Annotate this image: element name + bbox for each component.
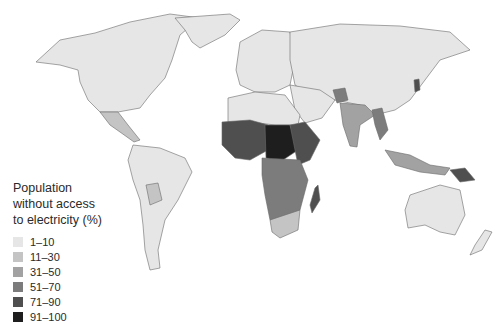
- legend-swatch: [13, 297, 23, 307]
- legend-item: 91–100: [13, 309, 133, 324]
- legend-swatch: [13, 282, 23, 292]
- region-papua-new-guinea: [450, 168, 475, 182]
- legend-label: 1–10: [30, 236, 54, 248]
- legend-swatch: [13, 252, 23, 262]
- legend-swatch: [13, 237, 23, 247]
- region-south-america: [128, 145, 192, 270]
- region-europe: [236, 30, 295, 92]
- region-north-america: [36, 14, 200, 112]
- region-north-africa: [228, 92, 300, 125]
- legend-item: 31–50: [13, 264, 133, 279]
- legend-title: Population without access to electricity…: [13, 180, 133, 228]
- region-north-korea: [414, 79, 420, 92]
- legend-label: 11–30: [30, 251, 60, 263]
- region-east-africa: [290, 122, 320, 165]
- legend-swatch: [13, 267, 23, 277]
- region-new-zealand: [470, 230, 492, 255]
- legend-title-line: Population: [13, 180, 133, 196]
- legend-item: 11–30: [13, 249, 133, 264]
- map-legend: Population without access to electricity…: [13, 180, 133, 324]
- legend-label: 51–70: [30, 281, 61, 293]
- legend-item: 1–10: [13, 234, 133, 249]
- region-west-africa: [222, 120, 268, 160]
- legend-title-line: to electricity (%): [13, 212, 133, 228]
- legend-label: 71–90: [30, 296, 61, 308]
- legend-title-line: without access: [13, 196, 133, 212]
- region-indonesia: [385, 150, 450, 175]
- region-madagascar: [310, 185, 320, 213]
- region-central-america: [100, 112, 140, 142]
- region-afghanistan: [333, 88, 348, 103]
- legend-item: 51–70: [13, 279, 133, 294]
- legend-label: 31–50: [30, 266, 61, 278]
- legend-label: 91–100: [30, 311, 67, 323]
- legend-item: 71–90: [13, 294, 133, 309]
- region-india: [340, 103, 375, 147]
- region-myanmar: [372, 108, 388, 140]
- legend-swatch: [13, 312, 23, 322]
- region-australia: [405, 185, 465, 235]
